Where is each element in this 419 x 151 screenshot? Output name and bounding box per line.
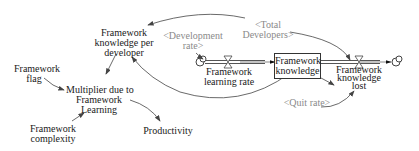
var-label: complexity (28, 134, 78, 144)
inflow-pipe (205, 61, 275, 64)
shadow-development-rate[interactable]: <Development rate> (163, 31, 223, 51)
stock-label: knowledge (275, 66, 320, 76)
shadow-label: Developers> (238, 30, 298, 40)
sink-cloud-icon (392, 56, 402, 66)
var-productivity[interactable]: Productivity (143, 126, 193, 136)
var-label: developer (94, 48, 154, 58)
stock-framework-knowledge[interactable]: Framework knowledge (274, 53, 321, 79)
flow-label: learning rate (198, 77, 260, 87)
var-label: Productivity (143, 126, 193, 136)
flow-framework-learning-rate[interactable]: Framework learning rate (198, 67, 260, 87)
shadow-label: rate> (163, 41, 223, 51)
var-multiplier-due-to-framework-learning[interactable]: Multiplier due to Framework Learning (66, 85, 132, 115)
flow-framework-knowledge-lost[interactable]: Framework knowledge lost (332, 66, 386, 90)
var-label: Learning (66, 105, 132, 115)
var-framework-complexity[interactable]: Framework complexity (28, 124, 78, 144)
shadow-total-developers[interactable]: <Total Developers> (238, 20, 298, 40)
var-framework-flag[interactable]: Framework flag (14, 64, 54, 84)
flow-label: lost (332, 82, 386, 90)
var-framework-knowledge-per-developer[interactable]: Framework knowledge per developer (94, 28, 154, 58)
shadow-label: <Quit rate> (282, 98, 332, 108)
shadow-quit-rate[interactable]: <Quit rate> (282, 98, 332, 108)
var-label: flag (14, 74, 54, 84)
link-multiplier-productivity (130, 100, 160, 121)
link-totaldev-fkpd (148, 14, 245, 25)
stock-flow-diagram: Framework knowledge Framework learning r… (0, 0, 419, 151)
